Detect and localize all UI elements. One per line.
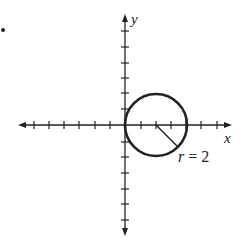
radius-segment [156, 125, 178, 147]
x-axis-right-arrow-icon [224, 122, 232, 128]
bullet-marker [1, 28, 5, 32]
x-axis-left-arrow-icon [18, 122, 26, 128]
y-axis-bottom-arrow-icon [122, 228, 128, 236]
radius-annotation: r = 2 [178, 148, 209, 165]
y-axis-top-arrow-icon [122, 14, 128, 22]
radius-equals: = [184, 148, 201, 165]
y-axis-label: y [129, 11, 138, 27]
x-axis-label: x [223, 130, 231, 146]
radius-value: 2 [201, 148, 209, 165]
circle-graph: y x r = 2 [0, 0, 242, 246]
